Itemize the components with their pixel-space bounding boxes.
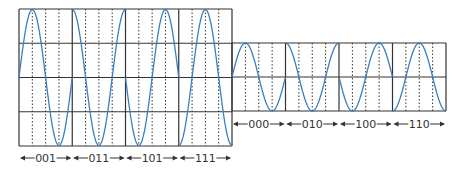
arrow-right-icon [173,156,178,161]
arrow-right-icon [66,156,71,161]
grid-lines [19,9,446,146]
arrow-right-icon [226,156,231,161]
arrow-left-icon [233,122,238,127]
arrow-right-icon [280,122,285,127]
symbol-label-000: 000 [248,118,269,131]
symbol-label-001: 001 [35,152,56,165]
arrow-left-icon [394,122,399,127]
symbol-label-011: 011 [88,152,109,165]
qam-waveform-diagram: 001011101111000010100110 [0,0,464,170]
arrow-left-icon [20,156,25,161]
arrow-right-icon [387,122,392,127]
symbol-label-111: 111 [195,152,216,165]
symbol-label-101: 101 [142,152,163,165]
arrow-left-icon [73,156,78,161]
symbol-label-110: 110 [409,118,430,131]
arrow-right-icon [120,156,125,161]
arrow-left-icon [180,156,185,161]
arrow-left-icon [287,122,292,127]
arrow-left-icon [340,122,345,127]
arrow-left-icon [127,156,132,161]
symbol-label-100: 100 [355,118,376,131]
arrow-right-icon [440,122,445,127]
symbol-label-010: 010 [302,118,323,131]
arrow-right-icon [333,122,338,127]
